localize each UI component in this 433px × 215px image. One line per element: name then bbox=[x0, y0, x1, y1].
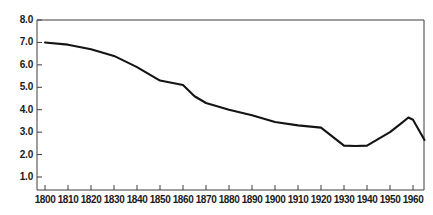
fertility-rate-line-chart: 8.07.06.05.04.03.02.01.0 180018101820183… bbox=[0, 0, 433, 215]
y-axis-tick-label: 8.0 bbox=[0, 14, 33, 25]
plot-frame bbox=[37, 20, 424, 190]
y-axis-tick-label: 2.0 bbox=[0, 149, 33, 160]
x-axis-tick-label: 1960 bbox=[393, 194, 433, 205]
y-axis-tick-label: 1.0 bbox=[0, 171, 33, 182]
y-axis-tick-label: 4.0 bbox=[0, 104, 33, 115]
fertility-rate-data-line bbox=[45, 42, 425, 146]
y-axis-tick-label: 6.0 bbox=[0, 59, 33, 70]
y-axis-tick-marks bbox=[37, 20, 42, 177]
x-axis-tick-marks bbox=[45, 185, 413, 190]
y-axis-tick-label: 3.0 bbox=[0, 126, 33, 137]
y-axis-tick-label: 5.0 bbox=[0, 81, 33, 92]
chart-plot-area bbox=[0, 0, 433, 215]
y-axis-tick-label: 7.0 bbox=[0, 36, 33, 47]
